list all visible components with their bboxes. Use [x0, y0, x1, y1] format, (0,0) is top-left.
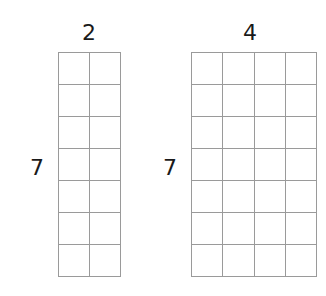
grid-cell [192, 245, 223, 277]
grid-cell [90, 149, 121, 181]
grid-cell [286, 85, 317, 117]
grid-cell [286, 117, 317, 149]
grid-cell [90, 53, 121, 85]
grid-cell [255, 181, 286, 213]
grid-cell [255, 149, 286, 181]
grid-cell [59, 213, 90, 245]
grid-cell [192, 213, 223, 245]
grid-cell [59, 53, 90, 85]
grid-cell [255, 245, 286, 277]
grid-cell [223, 53, 254, 85]
right-grid-4x7 [191, 52, 317, 277]
grid-cell [192, 117, 223, 149]
grid-cell [59, 117, 90, 149]
grid-cell [286, 213, 317, 245]
grid-cell [223, 117, 254, 149]
grid-cell [223, 245, 254, 277]
grid-cell [286, 181, 317, 213]
grid-cell [286, 149, 317, 181]
grid-cell [255, 117, 286, 149]
grid-cell [255, 85, 286, 117]
grid-cell [255, 213, 286, 245]
grid-cell [192, 181, 223, 213]
grid-cell [223, 213, 254, 245]
grid-cell [192, 53, 223, 85]
grid-cell [286, 245, 317, 277]
grid-cell [90, 181, 121, 213]
grid-cell [59, 181, 90, 213]
grid-cell [90, 117, 121, 149]
grid-cell [223, 85, 254, 117]
grid-cell [59, 245, 90, 277]
right-side-label: 7 [163, 157, 177, 179]
grid-cell [59, 85, 90, 117]
grid-cell [286, 53, 317, 85]
left-grid-2x7 [58, 52, 121, 277]
grid-cell [223, 181, 254, 213]
left-top-label: 2 [82, 22, 96, 44]
grid-cell [90, 85, 121, 117]
grid-cell [192, 85, 223, 117]
grid-cell [255, 53, 286, 85]
left-side-label: 7 [30, 157, 44, 179]
grid-cell [192, 149, 223, 181]
grid-cell [90, 213, 121, 245]
grid-cell [59, 149, 90, 181]
right-top-label: 4 [243, 22, 257, 44]
grid-cell [90, 245, 121, 277]
grid-cell [223, 149, 254, 181]
